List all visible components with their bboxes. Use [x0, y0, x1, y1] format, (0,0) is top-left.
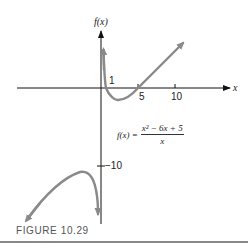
figure-caption: FIGURE 10.29 [16, 225, 89, 236]
curve-right-branch-top [104, 49, 105, 70]
y-axis-label: f(x) [94, 17, 108, 27]
x-tick-label-10: 10 [171, 92, 182, 102]
x-axis-label: x [233, 83, 237, 93]
equation-lhs: f(x) = [117, 130, 138, 140]
curve-left-branch-tail [26, 203, 40, 221]
y-tick-label-1: 1 [109, 76, 115, 86]
equation-denominator: x [160, 135, 164, 146]
x-tick-label-5: 5 [139, 92, 145, 102]
curve-left-branch [28, 172, 98, 218]
function-equation: f(x) = x² − 6x + 5 x [117, 123, 184, 146]
y-tick-label-neg10: −10 [105, 161, 122, 171]
bottom-rule [0, 241, 248, 243]
equation-numerator: x² − 6x + 5 [141, 123, 184, 135]
equation-fraction: x² − 6x + 5 x [141, 123, 184, 146]
